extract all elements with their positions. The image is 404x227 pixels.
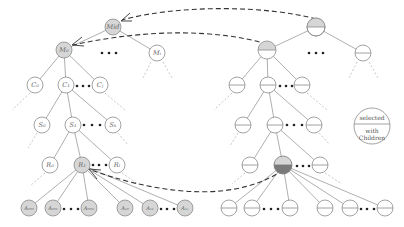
node-plain — [235, 117, 251, 133]
edge — [283, 165, 385, 208]
stub-edge — [28, 133, 37, 148]
node-label: Aₙ₀ — [120, 205, 129, 211]
node-leaf-plain — [342, 200, 358, 216]
stub-edge — [319, 133, 330, 145]
node-leaf: Aₙ₀ — [117, 200, 133, 216]
node-m0: M₀ — [56, 42, 72, 58]
ellipsis-icon — [308, 52, 325, 55]
stub-edge — [369, 62, 378, 78]
stub-edge — [230, 133, 238, 146]
node-leaf: Aₙ₁ — [142, 200, 158, 216]
stub-edge — [325, 173, 342, 184]
node-leaf-plain — [377, 200, 393, 216]
stub-edge — [349, 62, 357, 78]
arrow-level1-to-m0 — [73, 33, 267, 45]
node-root-selected — [307, 18, 325, 36]
node-leaf-plain — [244, 200, 260, 216]
node-label: Aₙₒ — [180, 205, 189, 211]
stub-edge — [163, 62, 172, 78]
node-sk: Sₖ — [105, 117, 121, 133]
node-label: M₀ — [58, 46, 69, 54]
node-mid: Mid — [105, 19, 121, 35]
ellipsis-icon — [101, 52, 118, 55]
node-leaf-plain — [317, 200, 333, 216]
node-plain — [355, 45, 371, 61]
ellipsis-icon — [263, 208, 280, 211]
node-label: Mid — [106, 23, 120, 31]
node-label: C₁ — [62, 81, 70, 89]
node-label: C₀ — [31, 81, 39, 89]
arrow-root-to-mid — [122, 9, 316, 20]
node-plain — [306, 117, 322, 133]
node-cj: Cⱼ — [92, 77, 108, 93]
node-c1: C₁ — [58, 77, 74, 93]
node-leaf-plain — [221, 200, 237, 216]
node-selected — [258, 41, 276, 59]
node-label: S₁ — [69, 121, 76, 129]
ellipsis-icon — [76, 85, 91, 88]
node-selected-with-children — [274, 156, 292, 174]
node-leaf: A₀₀ₘ — [81, 200, 97, 216]
node-label: R₀ — [45, 161, 54, 169]
stub-edge — [214, 93, 232, 110]
node-r1: R₁ — [74, 157, 90, 173]
stub-edge — [118, 133, 128, 145]
node-c0: C₀ — [27, 77, 43, 93]
node-r0: R₀ — [42, 157, 58, 173]
node-leaf: Aₙₒ — [177, 200, 193, 216]
node-leaf-plain — [282, 200, 298, 216]
node-plain — [312, 157, 328, 173]
node-plain — [229, 77, 245, 93]
node-label: Aₙ₁ — [145, 205, 154, 211]
ellipsis-icon — [296, 165, 311, 168]
stub-edge — [105, 93, 125, 110]
node-label: S₀ — [38, 121, 45, 129]
node-label: A₀₀ₘ — [83, 205, 95, 211]
stub-edge — [143, 62, 151, 78]
ellipsis-icon — [279, 85, 294, 88]
node-leaf: A₀₀₀ — [21, 200, 37, 216]
node-s1: S₁ — [65, 117, 81, 133]
tree-mapping-diagram: Mid M₀ Mᵢ C₀ C₁ Cⱼ S₀ S₁ — [0, 0, 404, 227]
ellipsis-icon — [160, 208, 176, 211]
stub-edge — [232, 173, 245, 184]
legend: selected with Children — [354, 108, 390, 144]
node-leaf: A₀₀₁ — [45, 200, 61, 216]
arrowhead-icon — [121, 13, 132, 21]
stub-edge — [12, 93, 30, 110]
node-plain — [267, 117, 283, 133]
node-label: R₁ — [77, 161, 86, 169]
node-label: Sₖ — [110, 121, 117, 129]
stub-edge — [30, 173, 45, 186]
node-plain — [242, 157, 258, 173]
node-label: Mᵢ — [152, 49, 162, 57]
ellipsis-icon — [92, 164, 108, 167]
stub-edge — [307, 93, 327, 110]
edge — [82, 165, 185, 208]
node-label: Rₗ — [113, 161, 121, 169]
node-rl: Rₗ — [109, 157, 125, 173]
ellipsis-icon — [286, 124, 304, 127]
legend-bottom-text-1: with — [365, 127, 378, 134]
node-plain — [260, 77, 276, 93]
ellipsis-icon — [63, 208, 80, 211]
legend-top-text: selected — [359, 114, 384, 121]
node-mi: Mᵢ — [149, 45, 165, 61]
ellipsis-icon — [83, 124, 102, 127]
legend-bottom-text-2: Children — [359, 134, 386, 141]
node-label: Cⱼ — [97, 81, 104, 89]
ellipsis-icon — [360, 208, 376, 211]
node-label: A₀₀₀ — [23, 205, 34, 211]
node-label: A₀₀₁ — [47, 205, 58, 211]
node-s0: S₀ — [34, 117, 50, 133]
node-plain — [294, 77, 310, 93]
